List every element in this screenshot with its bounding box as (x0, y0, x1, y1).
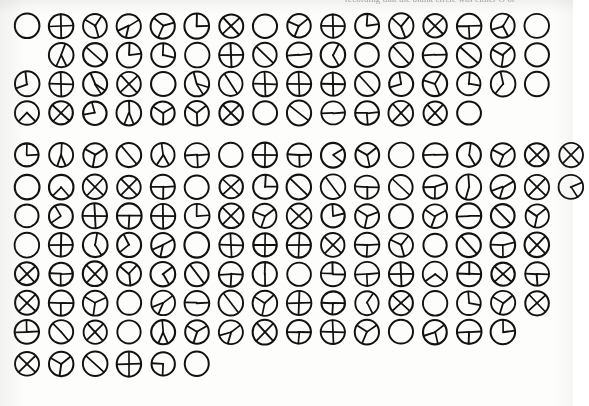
pie-circle-glyph (353, 318, 381, 346)
pie-circle-glyph (115, 260, 143, 288)
pie-circle-glyph (353, 12, 381, 40)
pie-circle-glyph (217, 260, 245, 288)
pie-circle-glyph (353, 41, 381, 69)
pie-circle-glyph (149, 289, 177, 317)
pie-circle-glyph (149, 12, 177, 40)
pie-circle-glyph (489, 41, 517, 69)
pie-circle-glyph (387, 99, 415, 127)
pie-circle-glyph (81, 202, 109, 230)
pie-circle-glyph (47, 99, 75, 127)
pie-circle-glyph (115, 99, 143, 127)
pie-circle-glyph (251, 202, 279, 230)
symbol-row (13, 12, 557, 42)
pie-circle-glyph (81, 99, 109, 127)
pie-circle-glyph (387, 231, 415, 259)
pie-circle-glyph (421, 41, 449, 69)
pie-circle-glyph (421, 231, 449, 259)
pie-circle-glyph (353, 141, 381, 169)
pie-circle-glyph (183, 350, 211, 378)
pie-circle-glyph (455, 12, 483, 40)
pie-circle-glyph (183, 70, 211, 98)
pie-circle-glyph (523, 173, 551, 201)
pie-circle-glyph (455, 99, 483, 127)
pie-circle-glyph (387, 289, 415, 317)
pie-circle-glyph (353, 231, 381, 259)
pie-circle-glyph (47, 41, 75, 69)
pie-circle-glyph (149, 231, 177, 259)
pie-circle-glyph (149, 350, 177, 378)
pie-circle-glyph (523, 260, 551, 288)
pie-circle-glyph (47, 12, 75, 40)
pie-circle-glyph (421, 70, 449, 98)
symbol-row (13, 99, 489, 129)
pie-circle-glyph (557, 173, 585, 201)
pie-circle-glyph (455, 289, 483, 317)
pie-circle-glyph (13, 231, 41, 259)
pie-circle-glyph (115, 231, 143, 259)
pie-circle-glyph (285, 70, 313, 98)
pie-circle-glyph (251, 12, 279, 40)
pie-circle-glyph (353, 202, 381, 230)
pie-circle-glyph (81, 318, 109, 346)
pie-circle-glyph (285, 289, 313, 317)
pie-circle-glyph (183, 12, 211, 40)
pie-circle-glyph (217, 318, 245, 346)
pie-circle-glyph (489, 231, 517, 259)
pie-circle-glyph (387, 260, 415, 288)
pie-circle-glyph (183, 231, 211, 259)
pie-circle-glyph (81, 289, 109, 317)
pie-circle-glyph (251, 70, 279, 98)
pie-circle-glyph (13, 289, 41, 317)
pie-circle-glyph (217, 289, 245, 317)
pie-circle-glyph (115, 70, 143, 98)
pie-circle-glyph (81, 141, 109, 169)
pie-circle-glyph (183, 318, 211, 346)
pie-circle-glyph (489, 141, 517, 169)
symbol-row (13, 70, 557, 100)
pie-circle-glyph (149, 141, 177, 169)
pie-circle-glyph (421, 141, 449, 169)
pie-circle-glyph (47, 289, 75, 317)
pie-circle-glyph (251, 141, 279, 169)
pie-circle-glyph (523, 41, 551, 69)
pie-circle-glyph (183, 173, 211, 201)
symbol-row (13, 318, 523, 348)
pie-circle-glyph (251, 318, 279, 346)
pie-circle-glyph (13, 99, 41, 127)
pie-circle-glyph (13, 350, 41, 378)
pie-circle-glyph (353, 173, 381, 201)
pie-circle-glyph (387, 12, 415, 40)
pie-circle-glyph (523, 70, 551, 98)
pie-circle-glyph (47, 173, 75, 201)
pie-circle-glyph (13, 141, 41, 169)
pie-circle-glyph (47, 202, 75, 230)
pie-circle-glyph (319, 173, 347, 201)
symbol-row (13, 350, 217, 380)
pie-circle-glyph (183, 202, 211, 230)
pie-circle-glyph (523, 141, 551, 169)
pie-circle-glyph (319, 289, 347, 317)
pie-circle-glyph (81, 173, 109, 201)
pie-circle-glyph (13, 12, 41, 40)
pie-circle-glyph (217, 99, 245, 127)
pie-circle-glyph (81, 12, 109, 40)
pie-circle-glyph (387, 70, 415, 98)
pie-circle-glyph (13, 318, 41, 346)
pie-circle-glyph (285, 260, 313, 288)
pie-circle-glyph (47, 141, 75, 169)
pie-circle-glyph (489, 318, 517, 346)
pie-circle-glyph (183, 141, 211, 169)
pie-circle-glyph (353, 70, 381, 98)
pie-circle-glyph (115, 350, 143, 378)
pie-circle-glyph (251, 231, 279, 259)
pie-circle-glyph (421, 12, 449, 40)
pie-circle-glyph (285, 202, 313, 230)
pie-circle-glyph (387, 41, 415, 69)
pie-circle-glyph (455, 202, 483, 230)
pie-circle-glyph (217, 70, 245, 98)
pie-circle-glyph (149, 173, 177, 201)
pie-circle-glyph (421, 289, 449, 317)
pie-circle-glyph (285, 173, 313, 201)
